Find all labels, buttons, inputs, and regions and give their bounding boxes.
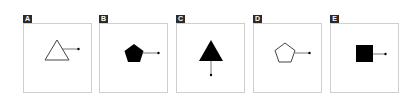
- outline-pentagon-arrow-right-icon: [254, 24, 321, 92]
- solid-pentagon-arrow-right-icon: [100, 24, 167, 92]
- option-c-figure[interactable]: [176, 23, 245, 93]
- outline-triangle-arrow-right-icon: [24, 24, 91, 92]
- option-c[interactable]: C: [176, 15, 245, 93]
- solid-triangle-arrow-down-icon: [177, 24, 244, 92]
- option-a[interactable]: A: [23, 15, 92, 93]
- option-label: E: [330, 15, 339, 23]
- option-e[interactable]: E: [330, 15, 399, 93]
- option-label: C: [176, 15, 185, 23]
- option-b[interactable]: B: [99, 15, 168, 93]
- option-e-figure[interactable]: [330, 23, 399, 93]
- option-a-figure[interactable]: [23, 23, 92, 93]
- option-d-figure[interactable]: [253, 23, 322, 93]
- option-label: B: [99, 15, 108, 23]
- option-b-figure[interactable]: [99, 23, 168, 93]
- option-label: D: [253, 15, 262, 23]
- solid-square-arrow-right-icon: [331, 24, 398, 92]
- option-d[interactable]: D: [253, 15, 322, 93]
- option-label: A: [23, 15, 32, 23]
